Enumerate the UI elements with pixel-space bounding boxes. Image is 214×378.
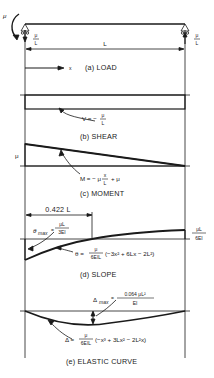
svg-text:L: L <box>35 40 38 46</box>
slope-dimension-label: 0.422 L <box>45 205 70 214</box>
svg-text:6EIL: 6EIL <box>81 340 92 346</box>
caption-slope: (d) SLOPE <box>80 270 117 279</box>
caption-load: (a) LOAD <box>85 63 117 72</box>
svg-text:μ: μ <box>35 32 38 38</box>
caption-moment: (c) MOMENT <box>80 189 125 198</box>
moment-arrowhead <box>13 35 19 40</box>
applied-moment-label: μ <box>2 12 7 19</box>
theta-max-label: θ <box>33 227 37 234</box>
svg-text:L: L <box>196 40 199 46</box>
elastic-curve <box>25 311 185 325</box>
svg-text:μ: μ <box>95 246 98 252</box>
moment-left-value: μ <box>15 152 19 159</box>
beam-diagram: μ μ L μ L L x (a) LOAD V = − μ L (b) SHE… <box>0 0 214 378</box>
svg-text:max: max <box>99 299 109 305</box>
slope-equation: θ = <box>75 250 84 257</box>
caption-shear: (b) SHEAR <box>80 132 117 141</box>
svg-text:6EI: 6EI <box>195 235 203 241</box>
slope-right-value: μL <box>196 226 202 232</box>
right-support-icon <box>181 24 189 31</box>
shear-equation: V = − <box>82 115 97 122</box>
x-axis-label: x <box>69 65 72 71</box>
span-label: L <box>103 40 107 47</box>
shear-diagram <box>25 95 185 109</box>
svg-text:0.064 μL²: 0.064 μL² <box>124 291 146 297</box>
svg-text:3EI: 3EI <box>58 229 66 235</box>
svg-text:μL: μL <box>59 221 65 227</box>
svg-text:+ μ: + μ <box>111 175 120 182</box>
svg-text:(−x³ + 3Lx² − 2L²x): (−x³ + 3Lx² − 2L²x) <box>95 336 146 343</box>
svg-text:L: L <box>102 120 105 126</box>
svg-text:L: L <box>104 180 107 186</box>
applied-moment-arrow-icon <box>12 14 19 38</box>
svg-text:max: max <box>38 230 48 236</box>
moment-equation: M = − μ <box>80 175 102 182</box>
svg-text:(−3x² + 6Lx − 2L²): (−3x² + 6Lx − 2L²) <box>105 250 154 257</box>
caption-elastic-curve: (e) ELASTIC CURVE <box>66 357 137 366</box>
svg-text:μ: μ <box>102 112 105 118</box>
delta-max-label: Δ <box>93 296 97 303</box>
svg-text:=: = <box>111 295 114 301</box>
svg-text:μ: μ <box>196 32 199 38</box>
left-support-icon <box>21 24 29 31</box>
svg-text:x: x <box>104 172 107 178</box>
elastic-equation: Δ = <box>65 336 75 343</box>
svg-text:=: = <box>51 227 54 233</box>
svg-text:EI: EI <box>133 300 138 306</box>
svg-text:6EIL: 6EIL <box>91 254 102 260</box>
svg-text:μ: μ <box>85 332 88 338</box>
